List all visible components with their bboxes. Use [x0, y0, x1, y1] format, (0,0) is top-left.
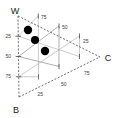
- tick-label-bottom-75: 75: [84, 70, 90, 76]
- data-point: [31, 36, 39, 44]
- tick-label-bottom-50: 50: [61, 81, 67, 87]
- tick-label-top-75: 75: [41, 14, 47, 20]
- tick-label-top-50: 50: [62, 24, 68, 30]
- tick-label-bottom-25: 25: [38, 91, 44, 97]
- tick-label-left-75: 75: [5, 73, 11, 79]
- tick-label-left-50: 50: [5, 53, 11, 59]
- tick-label-left-25: 25: [5, 33, 11, 39]
- data-point: [24, 26, 32, 34]
- vertex-label-w: W: [11, 6, 20, 16]
- ternary-diagram: W B C 25 50 75 75 50 25 25 50 75: [0, 0, 116, 118]
- ternary-plot-svg: W B C 25 50 75 75 50 25 25 50 75: [0, 0, 116, 118]
- data-point: [41, 47, 49, 55]
- vertex-label-c: C: [105, 53, 112, 63]
- tick-marks: [16, 14, 80, 80]
- vertex-label-b: B: [13, 105, 19, 115]
- data-point-group: [24, 26, 49, 55]
- grid-lines: [18, 16, 79, 77]
- tick-label-top-25: 25: [83, 38, 89, 44]
